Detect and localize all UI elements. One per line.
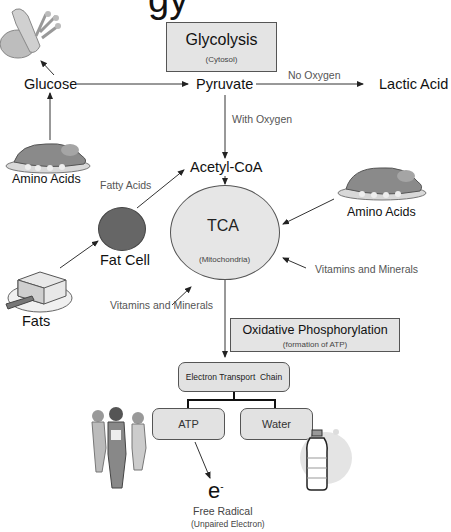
label-no-oxygen: No Oxygen xyxy=(288,70,341,81)
glycolysis-box: Glycolysis (Cytosol) xyxy=(166,22,277,72)
label-with-oxygen: With Oxygen xyxy=(232,114,292,125)
arrow-atp-electron xyxy=(195,442,210,478)
electron-letter: e xyxy=(208,478,220,503)
tca-title: TCA xyxy=(207,218,239,234)
electron-symbol: e- xyxy=(208,480,224,502)
oxidative-phosphorylation-box: Oxidative Phosphorylation (formation of … xyxy=(230,318,400,352)
turkey-illustration-right xyxy=(336,162,428,202)
node-glucose: Glucose xyxy=(24,77,77,92)
node-amino-acids-right: Amino Acids xyxy=(347,206,416,219)
node-free-radical: Free Radical xyxy=(193,506,253,517)
water-bottle-illustration xyxy=(290,428,352,498)
etc-label: Electron Transport Chain xyxy=(186,372,282,382)
arrow-amino-tca xyxy=(283,199,334,224)
exercising-people-illustration xyxy=(86,404,154,494)
connector-etc-children xyxy=(188,400,275,408)
arrow-vitamins-right-tca xyxy=(283,258,306,268)
atp-box: ATP xyxy=(152,408,225,440)
glycolysis-location: (Cytosol) xyxy=(167,56,276,64)
free-radical-note: (Unpaired Electron) xyxy=(191,520,265,529)
electron-charge: - xyxy=(220,481,223,492)
node-fat-cell: Fat Cell xyxy=(100,253,150,268)
page-title-fragment: gy xyxy=(148,0,188,21)
node-fats: Fats xyxy=(22,314,50,329)
turkey-illustration-left xyxy=(4,138,92,174)
fat-cell-icon xyxy=(98,207,146,251)
node-pyruvate: Pyruvate xyxy=(196,77,253,92)
glycolysis-title: Glycolysis xyxy=(167,32,276,48)
energy-metabolism-diagram: gy Glycolysis (Cytosol) Glucose Pyruvate… xyxy=(0,0,451,532)
label-vitamins-left: Vitamins and Minerals xyxy=(110,300,213,311)
node-acetyl-coa: Acetyl-CoA xyxy=(190,160,263,175)
node-lactic-acid: Lactic Acid xyxy=(379,77,448,92)
oxidative-subtitle: (formation of ATP) xyxy=(231,340,399,349)
butter-dish-illustration xyxy=(4,262,74,314)
oxidative-title: Oxidative Phosphorylation xyxy=(231,323,399,337)
grain-bread-illustration xyxy=(0,2,64,64)
water-label: Water xyxy=(262,418,291,430)
label-fatty-acids: Fatty Acids xyxy=(100,180,151,191)
tca-location: (Mitochondria) xyxy=(199,256,250,264)
electron-transport-chain-box: Electron Transport Chain xyxy=(178,362,290,392)
node-amino-acids-left: Amino Acids xyxy=(12,173,81,186)
atp-label: ATP xyxy=(178,418,199,430)
label-vitamins-right: Vitamins and Minerals xyxy=(315,264,418,275)
